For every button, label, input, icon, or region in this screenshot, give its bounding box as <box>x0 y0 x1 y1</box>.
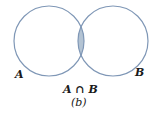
set-b-label: B <box>135 67 144 78</box>
set-a-label: A <box>15 69 24 80</box>
set-a-circle <box>14 6 84 76</box>
figure-caption: (b) <box>71 97 87 108</box>
intersection-label: A ∩ B <box>63 84 98 95</box>
